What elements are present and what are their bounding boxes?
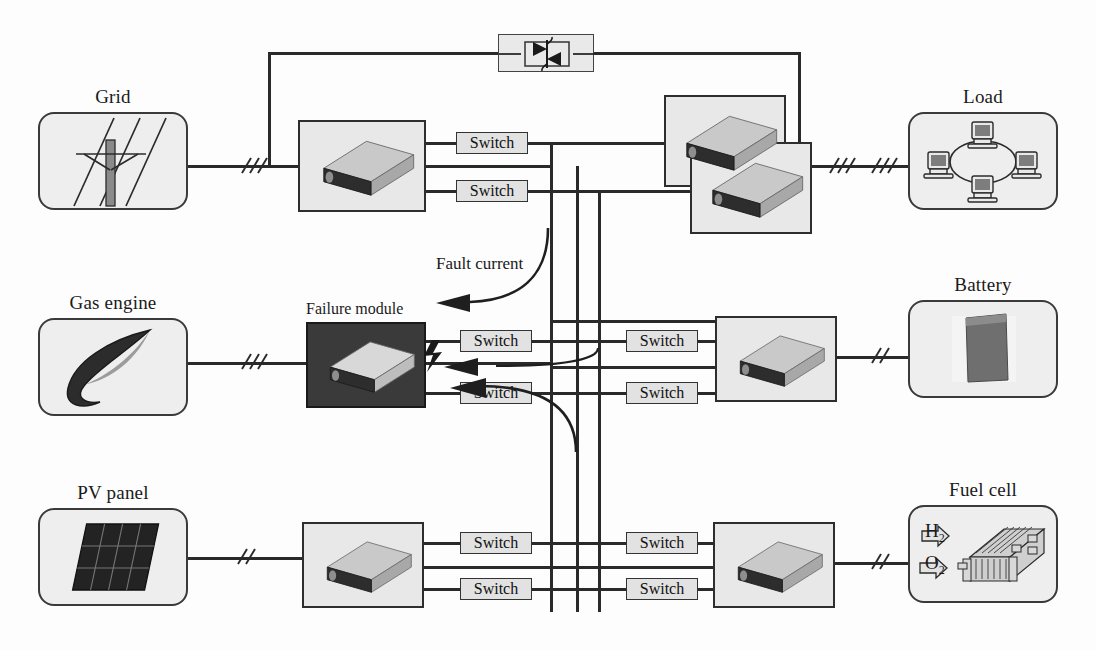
tick-fuelcell [866,549,892,575]
oxygen-subscript: 2 [939,563,945,577]
label-battery: Battery [908,274,1058,296]
sw-battery-top[interactable]: Switch [626,330,698,352]
switch-label: Switch [640,581,684,597]
label-hydrogen: H2 [925,520,945,546]
switch-label: Switch [474,333,518,349]
wire-failure-sw-bottom-right [530,392,628,395]
bus-1 [550,145,553,612]
sw-failure-top[interactable]: Switch [460,330,532,352]
module-grid-converter[interactable] [298,120,426,212]
label-load: Load [908,86,1058,108]
label-pv-panel: PV panel [18,482,208,504]
tick-load [866,153,900,179]
module-load-converter-front[interactable] [690,142,812,234]
tick-battery [866,343,892,369]
label-fuel-cell: Fuel cell [908,479,1058,501]
switch-label: Switch [640,385,684,401]
switch-label: Switch [640,333,684,349]
flame-icon [38,318,188,416]
tick-bypass [824,153,858,179]
wire-gridconv-out-mid [424,165,552,168]
switch-label: Switch [640,535,684,551]
switch-label: Switch [474,535,518,551]
sw-fuelcell-top[interactable]: Switch [626,532,698,554]
wire-pvconv-out-bottom [422,588,460,591]
label-oxygen: O2 [925,552,945,578]
bus-2 [576,166,579,612]
sw-pv-bottom[interactable]: Switch [460,578,532,600]
solar-panel-icon [38,508,188,606]
transmission-tower-icon [38,112,188,210]
wire-failure-out-mid [424,362,552,365]
wire-pv-sw-bottom-right [530,588,628,591]
wire-gridconv-out-top [424,142,458,145]
sw-battery-bottom[interactable]: Switch [626,382,698,404]
hydrogen-symbol: H [925,520,939,541]
label-failure-module: Failure module [306,300,403,318]
module-battery-converter[interactable] [715,316,837,402]
switch-label: Switch [474,385,518,401]
label-grid: Grid [38,86,188,108]
anti-parallel-thyristor-icon [499,35,595,73]
label-gas-engine: Gas engine [18,292,208,314]
wire-gridconv-out-bottom [424,190,458,193]
battery-cell-icon [908,300,1058,398]
wire-bypass-top-left [268,52,500,55]
tick-grid [236,153,270,179]
sw-pv-top[interactable]: Switch [460,532,532,554]
wire-failure-out-top [424,340,462,343]
module-fuelcell-converter[interactable] [713,522,835,608]
diagram-canvas: SwitchSwitchSwitchSwitchSwitchSwitchSwit… [0,0,1096,650]
label-fault-current: Fault current [436,254,523,274]
switch-label: Switch [470,183,514,199]
bus-3 [598,190,601,612]
hydrogen-subscript: 2 [939,531,945,545]
sw-failure-bottom[interactable]: Switch [460,382,532,404]
fault-arrowhead-mid [444,358,478,376]
lightning-bolt-icon [424,340,442,372]
tick-gas [236,349,270,375]
sw-grid-bottom[interactable]: Switch [456,180,528,202]
module-pv-converter[interactable] [302,522,424,608]
wire-bus-to-fcconv-mid [550,566,716,569]
wire-bypass-left-riser [268,52,271,167]
wire-pv-sw-top-right [530,542,628,545]
wire-failure-out-bottom [424,392,462,395]
wire-pvconv-out-top [422,542,460,545]
computer-network-icon [908,112,1058,210]
wire-pvconv-out-mid [422,566,552,569]
switch-label: Switch [470,135,514,151]
wire-bypass-top-right [592,52,800,55]
sw-fuelcell-bottom[interactable]: Switch [626,578,698,600]
switch-label: Switch [474,581,518,597]
anti-parallel-thyristor-box[interactable] [498,34,594,72]
tick-pv [232,544,258,570]
sw-grid-top[interactable]: Switch [456,132,528,154]
module-failure-module[interactable] [306,322,426,408]
fault-arrowhead-top [436,294,470,312]
wire-failure-sw-top-right [530,340,628,343]
oxygen-symbol: O [925,552,939,573]
